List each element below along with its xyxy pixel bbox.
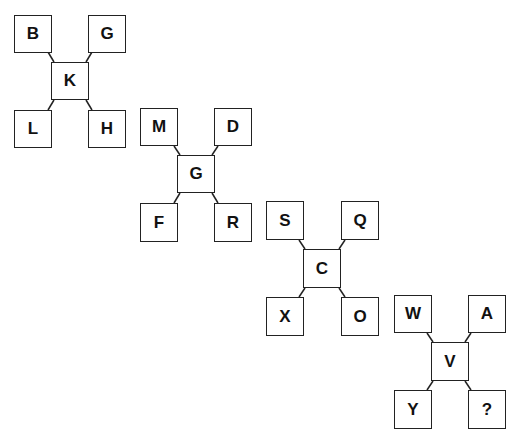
letter-box-top-left: W [394,295,432,333]
letter-box-bottom-left: L [14,110,52,148]
letter-box-top-left: B [14,15,52,53]
letter-box-top-right: G [88,15,126,53]
letter-box-top-right: D [214,108,252,146]
letter-box-top-left: S [266,201,304,240]
letter-box-bottom-left: Y [394,390,432,429]
letter-box-center: V [431,342,469,381]
letter-box-center: K [51,62,89,100]
letter-box-top-left: M [140,108,178,146]
letter-box-bottom-left: F [140,203,178,242]
letter-box-bottom-right: O [341,297,379,336]
letter-box-top-right: A [468,295,506,333]
letter-box-unknown-answer: ? [468,390,506,429]
letter-box-top-right: Q [341,201,379,240]
letter-box-bottom-right: H [88,110,126,148]
letter-box-center: C [303,249,341,288]
letter-box-bottom-left: X [266,297,304,336]
letter-box-center: G [177,155,215,193]
letter-box-bottom-right: R [214,203,252,242]
